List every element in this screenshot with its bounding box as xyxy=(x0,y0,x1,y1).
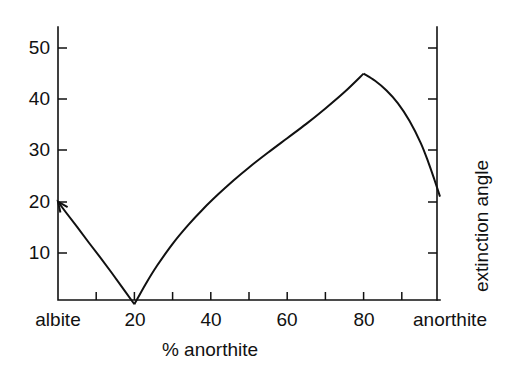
x-tick-label-albite: albite xyxy=(16,310,100,329)
x-axis-title: % anorthite xyxy=(0,340,420,359)
y-tick-label-50: 50 xyxy=(8,38,50,57)
left-bottom-axis-line xyxy=(58,27,440,300)
chart-figure: 50 40 30 20 10 albite 20 40 60 80 anorth… xyxy=(0,0,508,371)
y-tick-label-30: 30 xyxy=(8,140,50,159)
bottom-axis-ticks xyxy=(96,292,402,300)
x-tick-label-anorthite: anorthite xyxy=(395,310,505,329)
y-tick-label-20: 20 xyxy=(8,192,50,211)
x-tick-label-80: 80 xyxy=(341,310,387,329)
right-axis-ticks xyxy=(428,48,437,253)
x-tick-label-40: 40 xyxy=(188,310,234,329)
y-axis-title-right: extinction angle xyxy=(471,160,493,292)
left-axis-ticks xyxy=(58,48,67,253)
y-tick-label-10: 10 xyxy=(8,243,50,262)
axes-group xyxy=(58,27,440,300)
y-tick-label-40: 40 xyxy=(8,89,50,108)
extinction-angle-curve xyxy=(58,74,440,305)
x-tick-label-60: 60 xyxy=(264,310,310,329)
x-tick-label-20: 20 xyxy=(112,310,158,329)
